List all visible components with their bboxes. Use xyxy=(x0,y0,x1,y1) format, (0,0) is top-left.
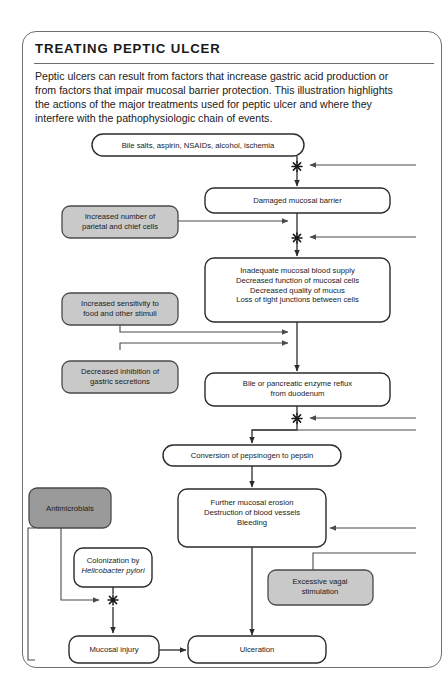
node-irritants: Bile salts, aspirin, NSAIDs, alcohol, is… xyxy=(92,134,304,156)
node-decreased-inhibition-line1: Decreased inhibition ofgastric secretion… xyxy=(81,367,160,386)
node-excessive-vagal: Excessive vagalstimulation xyxy=(268,570,373,605)
node-mucosal-injury: Mucosal injury xyxy=(69,636,159,663)
node-irritants-label: Bile salts, aspirin, NSAIDs, alcohol, is… xyxy=(122,141,275,150)
node-pepsin-conversion-label: Conversion of pepsinogen to pepsin xyxy=(191,451,314,460)
node-inadequate-supply: Inadequate mucosal blood supplyDecreased… xyxy=(205,258,390,322)
interference-marker-4 xyxy=(108,595,118,605)
interference-marker-3 xyxy=(292,414,302,424)
node-mucosal-injury-label: Mucosal injury xyxy=(89,645,138,654)
node-pepsin-conversion: Conversion of pepsinogen to pepsin xyxy=(163,445,341,466)
node-antimicrobials-label: Antimicrobials xyxy=(46,504,94,513)
node-hpylori-colonization-label: Colonization byHelicobacter pylori xyxy=(81,556,145,575)
node-further-erosion: Further mucosal erosionDestruction of bl… xyxy=(178,489,326,547)
node-bile-reflux: Bile or pancreatic enzyme refluxfrom duo… xyxy=(205,373,390,406)
node-decreased-inhibition: Decreased inhibition ofgastric secretion… xyxy=(62,361,178,393)
node-inadequate-supply-label: Inadequate mucosal blood supplyDecreased… xyxy=(236,266,359,304)
node-damaged-barrier: Damaged mucosal barrier xyxy=(205,188,390,213)
node-ulceration: Ulceration xyxy=(188,636,326,663)
node-parietal-cells-line1: Increased number ofparietal and chief ce… xyxy=(82,212,158,231)
node-ulceration-label: Ulceration xyxy=(240,645,275,654)
interference-marker-2 xyxy=(292,233,302,243)
node-damaged-barrier-label: Damaged mucosal barrier xyxy=(253,196,342,205)
interference-marker-1 xyxy=(292,162,302,172)
node-increased-sensitivity-line1: Increased sensitivity tofood and other s… xyxy=(81,299,159,318)
node-increased-sensitivity: Increased sensitivity tofood and other s… xyxy=(62,293,178,325)
node-antimicrobials: Antimicrobials xyxy=(29,488,111,528)
node-hpylori-colonization: Colonization byHelicobacter pylori xyxy=(74,548,152,587)
node-parietal-cells: Increased number ofparietal and chief ce… xyxy=(62,206,178,238)
